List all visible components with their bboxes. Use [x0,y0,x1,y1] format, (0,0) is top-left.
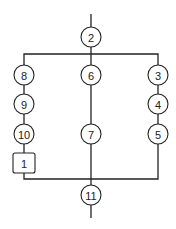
node-2: 2 [81,27,101,47]
node-4: 4 [148,94,168,114]
node-8: 8 [14,65,34,85]
node-label: 7 [88,129,94,141]
node-label: 6 [88,70,94,82]
node-3: 3 [148,65,168,85]
node-11: 11 [81,185,101,205]
node-10: 10 [14,124,34,144]
node-6: 6 [81,65,101,85]
node-label: 11 [85,190,96,202]
node-9: 9 [14,94,34,114]
node-7: 7 [81,124,101,144]
node-label: 4 [155,99,161,111]
node-label: 9 [21,99,27,111]
flow-diagram: 2891016734511 [0,0,176,229]
node-label: 5 [155,129,161,141]
node-label: 8 [21,70,27,82]
node-label: 2 [88,32,94,44]
node-label: 10 [18,129,30,141]
node-label: 3 [155,70,161,82]
node-1: 1 [13,153,35,173]
node-label: 1 [21,158,27,170]
node-5: 5 [148,124,168,144]
